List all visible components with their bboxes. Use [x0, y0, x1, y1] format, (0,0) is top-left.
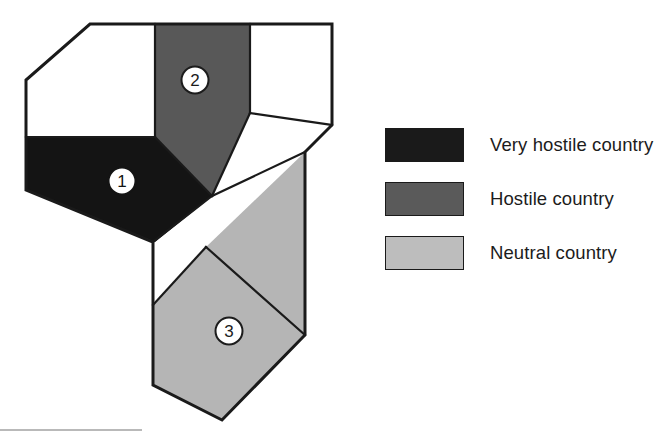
region-unshaded-northwest — [26, 24, 155, 137]
legend-swatch-hostile — [385, 182, 464, 216]
region-marker-1[interactable]: 1 — [109, 168, 136, 195]
region-unshaded-northeast — [250, 24, 332, 125]
region-marker-3[interactable]: 3 — [216, 318, 243, 345]
legend-item-very-hostile[interactable]: Very hostile country — [385, 128, 660, 162]
map-legend: Very hostile country Hostile country Neu… — [385, 128, 660, 290]
legend-label-very-hostile: Very hostile country — [490, 136, 653, 155]
legend-label-hostile: Hostile country — [490, 190, 614, 209]
legend-swatch-neutral — [385, 236, 464, 270]
region-marker-1-label: 1 — [117, 172, 126, 191]
legend-item-neutral[interactable]: Neutral country — [385, 236, 660, 270]
region-marker-3-label: 3 — [224, 322, 233, 341]
legend-item-hostile[interactable]: Hostile country — [385, 182, 660, 216]
region-marker-2[interactable]: 2 — [182, 67, 209, 94]
legend-swatch-very-hostile — [385, 128, 464, 162]
region-marker-2-label: 2 — [190, 71, 199, 90]
bottom-rule — [0, 429, 142, 431]
legend-label-neutral: Neutral country — [490, 244, 617, 263]
figure-root: 1 2 3 Very hostile country Hostile count… — [0, 0, 671, 435]
